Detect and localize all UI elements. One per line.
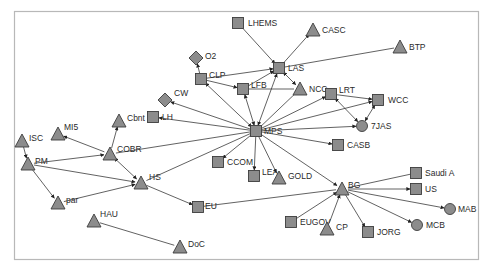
node-eu[interactable]: EU — [193, 201, 217, 213]
node-wcc[interactable]: WCC — [373, 95, 409, 106]
triangle-node-icon — [335, 182, 349, 195]
node-cbnt[interactable]: Cbnt — [112, 113, 146, 127]
node-cw[interactable]: CW — [158, 88, 188, 107]
node-jorg[interactable]: JORG — [363, 227, 401, 238]
triangle-node-icon — [173, 240, 187, 253]
edge-mps-to-lrt — [261, 97, 325, 129]
diamond-node-icon — [158, 93, 172, 107]
node-o2[interactable]: O2 — [189, 51, 217, 65]
node-mab[interactable]: MAB — [445, 204, 477, 215]
edge-pm-to-hs — [34, 165, 135, 182]
node-ncc[interactable]: NCC — [293, 82, 327, 95]
square-node-icon — [411, 168, 422, 179]
triangle-node-icon — [51, 196, 65, 209]
circle-node-icon — [412, 220, 423, 231]
square-node-icon — [249, 171, 260, 182]
node-label: LRT — [339, 85, 355, 95]
edge-pm-to-par — [32, 169, 55, 198]
node-lhems[interactable]: LHEMS — [233, 18, 278, 29]
edge-bg-to-jorg — [345, 194, 365, 227]
node-7jas[interactable]: 7JAS — [357, 121, 392, 132]
node-label: CASB — [347, 140, 370, 150]
node-label: EU — [205, 201, 217, 211]
node-label: CASC — [322, 25, 346, 35]
edge-mps-to-ncc — [260, 93, 295, 127]
circle-node-icon — [357, 121, 368, 132]
square-node-icon — [148, 112, 159, 123]
node-las[interactable]: LAS — [274, 63, 305, 74]
circle-node-icon — [445, 204, 456, 215]
node-casb[interactable]: CASB — [333, 140, 371, 151]
edge-eugov-to-bg — [296, 192, 337, 218]
node-label: LFB — [251, 80, 267, 90]
node-label: Cbnt — [127, 113, 146, 123]
node-label: CCOM — [227, 157, 253, 167]
node-casc[interactable]: CASC — [306, 23, 346, 36]
triangle-node-icon — [103, 147, 117, 160]
node-label: ISC — [29, 133, 43, 143]
node-label: O2 — [205, 51, 217, 61]
node-ccom[interactable]: CCOM — [213, 157, 253, 168]
square-node-icon — [196, 74, 207, 85]
edge-cp-to-bg — [329, 195, 340, 224]
triangle-node-icon — [21, 157, 35, 170]
edge-las-to-casc — [283, 34, 309, 63]
node-us[interactable]: US — [411, 184, 438, 195]
node-label: LH — [162, 112, 173, 122]
node-hs[interactable]: HS — [134, 172, 161, 189]
node-saudi-a[interactable]: Saudi A — [411, 168, 455, 179]
node-bg[interactable]: BG — [335, 180, 360, 195]
node-mi5[interactable]: MI5 — [51, 122, 78, 140]
edge-ncc-to-las — [283, 72, 296, 85]
node-doc[interactable]: DoC — [173, 239, 205, 253]
node-label: HAU — [100, 209, 118, 219]
edge-lrt-to-wcc — [337, 95, 372, 99]
triangle-node-icon — [87, 214, 101, 227]
edge-hs-to-eu — [147, 185, 193, 204]
node-label: MAB — [458, 204, 477, 214]
node-clp[interactable]: CLP — [196, 70, 226, 85]
edge-hau-to-doc — [100, 223, 175, 246]
triangle-node-icon — [15, 134, 29, 147]
node-par[interactable]: par — [51, 195, 78, 209]
node-label: HS — [149, 172, 161, 182]
node-cobr[interactable]: COBR — [103, 144, 142, 160]
square-node-icon — [411, 184, 422, 195]
square-node-icon — [251, 126, 262, 137]
square-node-icon — [238, 84, 249, 95]
node-hau[interactable]: HAU — [87, 209, 118, 227]
node-lfb[interactable]: LFB — [238, 80, 267, 95]
square-node-icon — [274, 63, 285, 74]
node-isc[interactable]: ISC — [15, 133, 43, 147]
node-label: MCB — [426, 220, 445, 230]
edge-cobr-to-mi5 — [64, 136, 105, 152]
node-label: MPS — [264, 126, 283, 136]
diamond-node-icon — [189, 51, 203, 65]
node-label: BG — [348, 180, 360, 190]
node-label: par — [66, 195, 78, 205]
node-gold[interactable]: GOLD — [272, 171, 312, 184]
node-label: CP — [336, 222, 348, 232]
node-pm[interactable]: PM — [21, 156, 48, 170]
triangle-node-icon — [112, 114, 126, 127]
node-btp[interactable]: BTP — [393, 40, 426, 53]
edge-hs-to-cobr — [114, 158, 136, 179]
node-lea[interactable]: LEA — [249, 167, 279, 182]
node-lrt[interactable]: LRT — [326, 85, 355, 100]
node-eugov[interactable]: EUGOV — [286, 217, 332, 228]
triangle-node-icon — [306, 23, 320, 36]
node-lh[interactable]: LH — [148, 112, 173, 123]
node-label: DoC — [188, 239, 205, 249]
node-label: PM — [35, 156, 48, 166]
node-label: BTP — [409, 42, 426, 52]
node-label: WCC — [388, 95, 408, 105]
node-label: LEA — [262, 167, 278, 177]
node-mcb[interactable]: MCB — [412, 220, 446, 231]
node-label: CW — [174, 88, 188, 98]
square-node-icon — [233, 18, 244, 29]
node-mps[interactable]: MPS — [251, 126, 283, 137]
edges-layer — [24, 27, 445, 245]
node-label: JORG — [377, 227, 401, 237]
edge-mps-to-ccom — [223, 135, 252, 158]
square-node-icon — [363, 227, 374, 238]
